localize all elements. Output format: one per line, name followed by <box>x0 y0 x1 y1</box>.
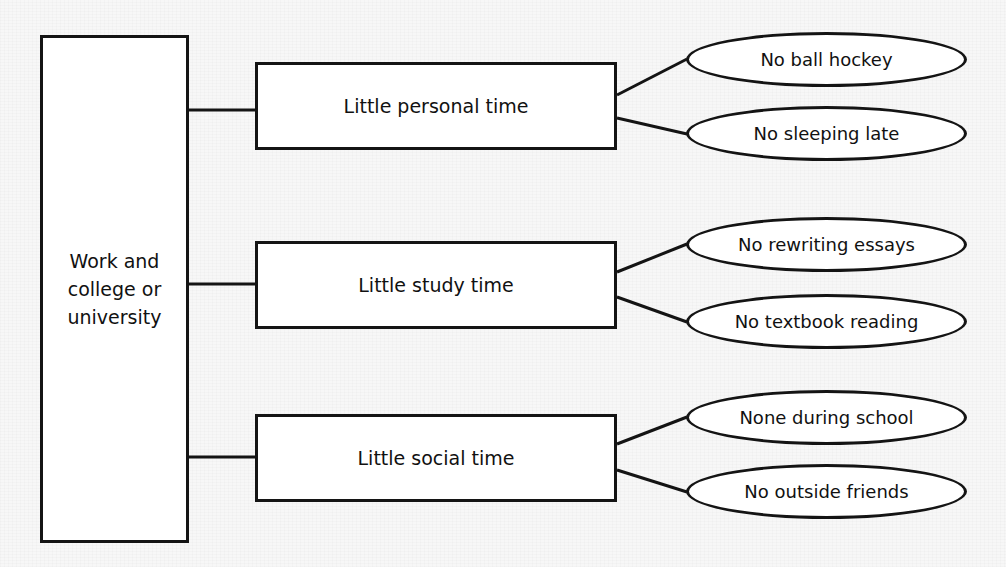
leaf-node-label: No sleeping late <box>748 123 906 144</box>
leaf-node-none-during-school[interactable]: None during school <box>686 390 967 445</box>
branch-node-label: Little social time <box>352 447 521 469</box>
leaf-node-label: No textbook reading <box>729 311 925 332</box>
branch-node-little-study-time[interactable]: Little study time <box>255 241 617 329</box>
leaf-node-no-outside-friends[interactable]: No outside friends <box>686 464 967 519</box>
leaf-node-no-sleeping-late[interactable]: No sleeping late <box>686 106 967 161</box>
connector-branch-to-leaf <box>617 118 687 134</box>
branch-node-label: Little personal time <box>338 95 535 117</box>
leaf-node-no-textbook-reading[interactable]: No textbook reading <box>686 294 967 349</box>
connector-branch-to-leaf <box>617 470 687 492</box>
leaf-node-no-rewriting-essays[interactable]: No rewriting essays <box>686 217 967 272</box>
leaf-node-label: No outside friends <box>738 481 914 502</box>
connector-branch-to-leaf <box>617 244 687 272</box>
connector-branch-to-leaf <box>617 417 687 444</box>
tree-diagram: Work and college or university Little pe… <box>0 0 1006 567</box>
branch-node-little-personal-time[interactable]: Little personal time <box>255 62 617 150</box>
root-node-label: Work and college or university <box>62 247 168 331</box>
leaf-node-no-ball-hockey[interactable]: No ball hockey <box>686 32 967 87</box>
branch-node-label: Little study time <box>352 274 519 296</box>
branch-node-little-social-time[interactable]: Little social time <box>255 414 617 502</box>
leaf-node-label: No rewriting essays <box>732 234 921 255</box>
connector-branch-to-leaf <box>617 59 687 95</box>
leaf-node-label: No ball hockey <box>754 49 898 70</box>
root-node[interactable]: Work and college or university <box>40 35 189 543</box>
connector-branch-to-leaf <box>617 297 687 322</box>
leaf-node-label: None during school <box>733 407 919 428</box>
